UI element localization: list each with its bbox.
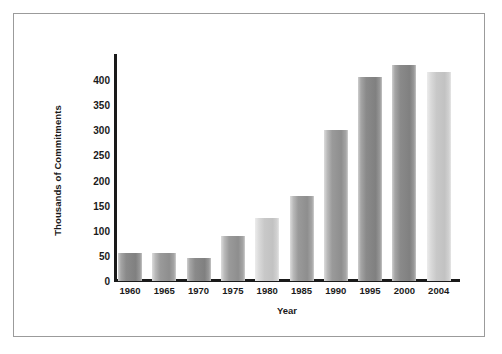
y-tick-label: 0	[84, 276, 110, 287]
bar-1970	[187, 258, 211, 281]
y-axis-line	[114, 54, 117, 282]
y-tick-label: 250	[84, 150, 110, 161]
bar-1965	[152, 253, 176, 281]
y-tick-label: 400	[84, 75, 110, 86]
bar-1960	[118, 253, 142, 281]
bar-2000	[392, 65, 416, 281]
y-tick-label: 350	[84, 100, 110, 111]
bar-1990	[324, 130, 348, 281]
bar-1975	[221, 236, 245, 281]
y-tick-label: 300	[84, 125, 110, 136]
bar-chart-plot-area: Thousands of Commitments Year 0501001502…	[0, 0, 502, 354]
bar-1995	[358, 77, 382, 281]
x-tick-label-1985: 1985	[285, 285, 319, 296]
bar-1985	[290, 196, 314, 281]
y-axis-title: Thousands of Commitments	[52, 91, 63, 251]
y-tick-label: 200	[84, 175, 110, 186]
x-axis-title: Year	[114, 305, 460, 316]
y-tick-label: 100	[84, 225, 110, 236]
x-tick-label-1965: 1965	[147, 285, 181, 296]
x-tick-label-2004: 2004	[422, 285, 456, 296]
bar-2004	[427, 72, 451, 281]
y-tick-label: 50	[84, 250, 110, 261]
x-tick-label-2000: 2000	[387, 285, 421, 296]
bar-1980	[255, 218, 279, 281]
x-tick-label-1975: 1975	[216, 285, 250, 296]
x-tick-label-1970: 1970	[182, 285, 216, 296]
x-tick-label-1990: 1990	[319, 285, 353, 296]
x-tick-label-1995: 1995	[353, 285, 387, 296]
chart-page: Thousands of Commitments Year 0501001502…	[0, 0, 502, 354]
x-tick-label-1980: 1980	[250, 285, 284, 296]
x-tick-label-1960: 1960	[113, 285, 147, 296]
y-tick-label: 150	[84, 200, 110, 211]
